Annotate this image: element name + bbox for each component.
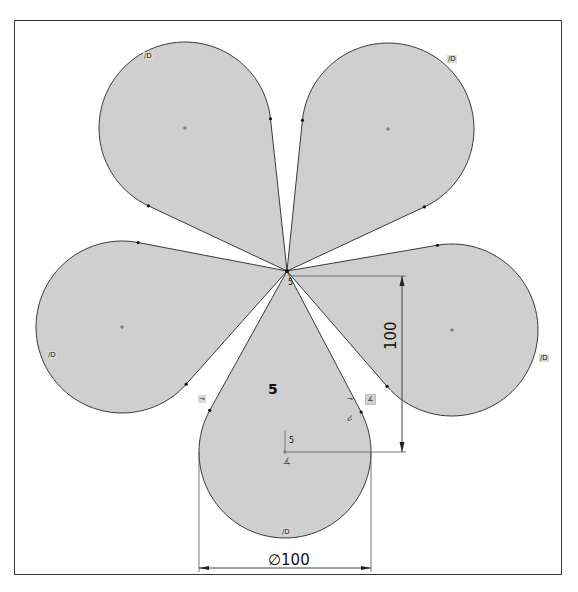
tangent-point[interactable]	[360, 410, 363, 413]
petal-top-left[interactable]	[99, 42, 287, 271]
pattern-count-label[interactable]: 5	[268, 381, 278, 397]
fix-relation-icon-bottom: ∡	[283, 456, 291, 466]
tangent-point[interactable]	[185, 383, 188, 386]
tangent-tag-left[interactable]: ∕D	[47, 351, 57, 359]
tangent-tag-top-right[interactable]: ∕D	[447, 55, 457, 63]
dim-diameter-value[interactable]: ∅100	[268, 551, 310, 569]
tangent-point[interactable]	[423, 205, 426, 208]
origin-point[interactable]	[285, 269, 289, 273]
tangent-point[interactable]	[208, 409, 211, 412]
tangent-point[interactable]	[137, 241, 140, 244]
arrow-right-icon	[361, 566, 371, 570]
coincident-tag-right[interactable]: ⊸	[346, 395, 354, 403]
tangent-point[interactable]	[385, 385, 388, 388]
tangent-point[interactable]	[269, 117, 272, 120]
tangent-tag-top-left[interactable]: ∕D	[143, 52, 153, 60]
dim-vertical-value[interactable]: 100	[382, 321, 400, 350]
tangent-tag-bottom[interactable]: ∕D	[281, 528, 291, 536]
tangent-point[interactable]	[301, 119, 304, 122]
tangent-point[interactable]	[147, 204, 150, 207]
coincident-tag-left[interactable]: ⊸	[198, 395, 206, 403]
bottom-small-value: 5	[289, 436, 294, 445]
center-small-value: 5	[288, 278, 293, 287]
tangent-point[interactable]	[436, 244, 439, 247]
petal-top-right[interactable]	[287, 43, 474, 271]
tangent-glyph-icon: ሪ	[347, 413, 352, 424]
fix-relation-icon[interactable]: ∡	[365, 394, 376, 405]
arrow-left-icon	[199, 566, 209, 570]
tangent-tag-right[interactable]: ∕D	[539, 354, 549, 362]
sketch-canvas[interactable]	[0, 0, 578, 592]
arrow-down-icon	[400, 442, 405, 452]
